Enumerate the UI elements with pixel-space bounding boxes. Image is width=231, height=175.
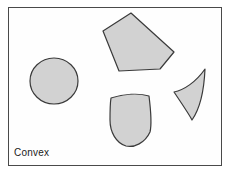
circle-shape bbox=[30, 58, 78, 104]
figure-caption: Convex bbox=[14, 147, 49, 159]
dome-shape bbox=[110, 94, 151, 146]
pentagon-shape bbox=[103, 13, 174, 71]
figure-container: Convex bbox=[0, 0, 231, 175]
curved-triangle-shape bbox=[174, 69, 205, 120]
